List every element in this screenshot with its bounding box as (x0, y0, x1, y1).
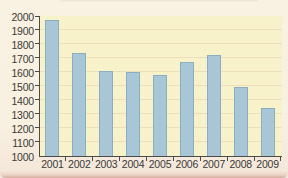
y-axis-tick-label: 1300 (0, 109, 34, 120)
gridline (40, 43, 282, 44)
y-axis-tick (35, 16, 39, 17)
y-axis-tick-label: 2000 (0, 11, 34, 22)
y-axis-tick-label: 1000 (0, 151, 34, 162)
y-axis-tick (35, 113, 39, 114)
bar (180, 62, 194, 157)
bar (99, 71, 113, 156)
y-axis-tick (35, 29, 39, 30)
y-axis-tick-label: 1800 (0, 39, 34, 50)
x-axis-tick-label: 2009 (250, 159, 286, 170)
y-axis-tick-label: 1200 (0, 123, 34, 134)
y-axis-tick (35, 141, 39, 142)
y-axis-tick-label: 1400 (0, 95, 34, 106)
bar (45, 20, 59, 157)
y-axis-tick-label: 1100 (0, 137, 34, 148)
y-axis-tick-label: 1600 (0, 67, 34, 78)
y-axis-tick-label: 1900 (0, 25, 34, 36)
y-axis-tick-label: 1700 (0, 53, 34, 64)
bar (207, 55, 221, 157)
page-top-edge (60, 0, 258, 2)
y-axis-tick-label: 1500 (0, 81, 34, 92)
y-axis-tick (35, 85, 39, 86)
gridline (40, 29, 282, 30)
y-axis-tick (35, 57, 39, 58)
y-axis-tick (35, 43, 39, 44)
y-axis-tick (35, 127, 39, 128)
scanned-figure: 1000110012001300140015001600170018001900… (0, 0, 288, 178)
bar (72, 53, 86, 156)
y-axis-tick (35, 99, 39, 100)
plot-area (39, 16, 282, 157)
bar (261, 108, 275, 156)
y-axis-tick (35, 71, 39, 72)
bar (126, 72, 140, 156)
bar (234, 87, 248, 156)
bar (153, 75, 167, 156)
page-bottom-edge (0, 171, 288, 178)
